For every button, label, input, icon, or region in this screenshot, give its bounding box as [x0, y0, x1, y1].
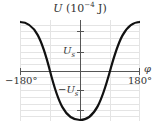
us-positive-label: Us [63, 45, 75, 59]
x-axis-label: φ [144, 63, 151, 74]
x-max-label: 180° [128, 75, 152, 86]
us-negative-label: −Us [58, 84, 78, 98]
x-min-label: −180° [5, 75, 37, 86]
plot [0, 0, 160, 126]
